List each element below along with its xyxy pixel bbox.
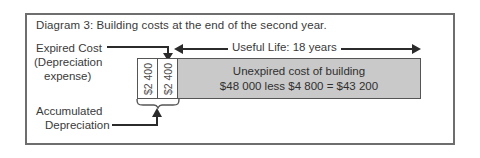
label-useful-life: Useful Life: 18 years <box>228 41 341 53</box>
expired-cost-cell-year-1-value: $2 400 <box>142 62 154 94</box>
diagram-title: Diagram 3: Building costs at the end of … <box>36 19 327 31</box>
label-depreciation-line2: expense) <box>44 69 91 83</box>
expired-cost-cell-year-2-value: $2 400 <box>162 62 174 94</box>
arrow-up-icon <box>152 108 162 117</box>
expired-cost-cell-year-1: $2 400 <box>138 59 158 98</box>
building-cost-bar: $2 400 $2 400 Unexpired cost of building… <box>137 58 421 99</box>
label-accumulated-line2: Depreciation <box>45 118 110 132</box>
connector-accumulated-horizontal <box>112 124 158 126</box>
unexpired-cost-line2: $48 000 less $4 800 = $43 200 <box>220 79 378 94</box>
label-accumulated-line1: Accumulated <box>36 104 102 118</box>
connector-accumulated-vertical <box>156 116 158 126</box>
connector-expired-cost-horizontal <box>107 46 169 48</box>
diagram-canvas: Diagram 3: Building costs at the end of … <box>0 0 480 158</box>
label-expired-cost: Expired Cost <box>36 41 102 55</box>
unexpired-cost-line1: Unexpired cost of building <box>233 64 365 79</box>
arrow-right-icon <box>412 44 421 54</box>
label-depreciation-line1: (Depreciation <box>34 55 102 69</box>
unexpired-cost-cell: Unexpired cost of building $48 000 less … <box>178 59 420 98</box>
expired-cost-cell-year-2: $2 400 <box>158 59 178 98</box>
